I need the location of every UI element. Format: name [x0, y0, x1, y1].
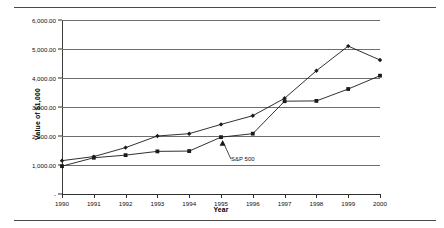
x-tick-label: 1991: [87, 200, 101, 207]
annotation-arrow-head: [220, 140, 226, 146]
x-tick-label: 1992: [119, 200, 133, 207]
x-tick-label: 1999: [341, 200, 355, 207]
x-tick-mark: [94, 194, 95, 198]
data-point-marker: [60, 164, 64, 168]
data-point-marker: [378, 58, 382, 62]
data-point-marker: [155, 134, 159, 138]
y-tick-label: -: [54, 191, 56, 198]
data-point-marker: [315, 99, 319, 103]
x-tick-mark: [189, 194, 190, 198]
data-point-marker: [346, 87, 350, 91]
data-point-marker: [124, 153, 128, 157]
x-tick-mark: [316, 194, 317, 198]
x-tick-mark: [253, 194, 254, 198]
series-2: [60, 74, 382, 168]
x-tick-mark: [157, 194, 158, 198]
series-line: [62, 76, 380, 166]
series-layer: [62, 20, 380, 194]
x-tick-mark: [348, 194, 349, 198]
x-tick-mark: [221, 194, 222, 198]
x-tick-label: 1996: [246, 200, 260, 207]
data-point-marker: [92, 156, 96, 160]
y-tick-label: 2,000.00: [32, 133, 56, 140]
x-tick-mark: [380, 194, 381, 198]
data-point-marker: [219, 135, 223, 139]
y-tick-label: 1,000.00: [32, 162, 56, 169]
x-tick-label: 1994: [182, 200, 196, 207]
x-axis-title: Year: [62, 206, 380, 213]
data-point-marker: [251, 132, 255, 136]
x-tick-mark: [62, 194, 63, 198]
x-tick-mark: [285, 194, 286, 198]
y-tick-label: 5,000.00: [32, 46, 56, 53]
data-point-marker: [156, 149, 160, 153]
x-tick-label: 2000: [373, 200, 387, 207]
x-tick-label: 1993: [151, 200, 165, 207]
data-point-marker: [219, 122, 223, 126]
y-tick-label: 3,000.00: [32, 104, 56, 111]
data-point-marker: [123, 145, 127, 149]
x-tick-label: 1990: [55, 200, 69, 207]
plot-area: -1,000.002,000.003,000.004,000.005,000.0…: [62, 20, 380, 194]
x-tick-mark: [126, 194, 127, 198]
figure-top-rule: [14, 7, 436, 8]
chart-figure: Value of $1,000 Year -1,000.002,000.003,…: [0, 0, 444, 228]
data-point-marker: [187, 149, 191, 153]
figure-bottom-rule: [14, 220, 436, 221]
y-tick-label: 6,000.00: [32, 17, 56, 24]
x-tick-label: 1997: [278, 200, 292, 207]
data-point-marker: [60, 158, 64, 162]
data-point-marker: [251, 114, 255, 118]
x-tick-label: 1998: [310, 200, 324, 207]
x-tick-label: 1995: [214, 200, 228, 207]
data-point-marker: [187, 131, 191, 135]
data-point-marker: [283, 99, 287, 103]
data-point-marker: [378, 74, 382, 78]
annotation-label-sp500: S&P 500: [231, 156, 255, 162]
y-tick-label: 4,000.00: [32, 75, 56, 82]
